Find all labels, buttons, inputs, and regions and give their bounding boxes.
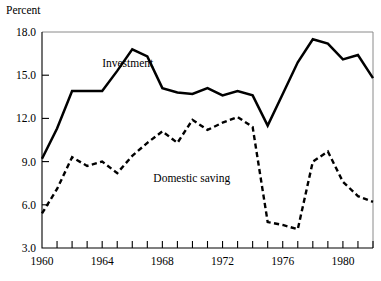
plot-border — [42, 32, 373, 248]
x-axis-tick-labels: 196019641968197219761980 — [31, 255, 355, 267]
y-axis-tick-label: 12.0 — [16, 112, 36, 124]
y-axis-tick-label: 6.0 — [22, 199, 37, 211]
chart-figure: 18.015.012.09.06.03.0 196019641968197219… — [0, 0, 381, 281]
x-axis-tick-label: 1968 — [151, 255, 174, 267]
annotation-domestic-saving: Domestic saving — [153, 172, 230, 185]
line-chart-canvas: 18.015.012.09.06.03.0 196019641968197219… — [0, 0, 381, 281]
series-annotations: InvestmentDomestic saving — [102, 57, 230, 185]
y-axis-tick-label: 3.0 — [22, 242, 37, 254]
data-series-group — [42, 39, 373, 229]
x-axis-tick-label: 1960 — [31, 255, 54, 267]
annotation-investment: Investment — [102, 57, 154, 69]
x-axis-ticks — [57, 241, 373, 248]
y-axis-tick-label: 15.0 — [16, 69, 36, 81]
x-axis-tick-label: 1980 — [331, 255, 354, 267]
x-axis-tick-label: 1976 — [271, 255, 294, 267]
y-axis-tick-labels: 18.015.012.09.06.03.0 — [16, 26, 36, 254]
plot-frame — [42, 32, 373, 248]
y-axis-ticks — [42, 75, 49, 205]
x-axis-tick-label: 1972 — [211, 255, 234, 267]
y-axis-tick-label: 18.0 — [16, 26, 36, 38]
y-axis-title: Percent — [6, 4, 41, 16]
series-line-investment — [42, 39, 373, 159]
plot-axes — [42, 32, 373, 248]
y-axis-tick-label: 9.0 — [22, 156, 37, 168]
x-axis-tick-label: 1964 — [91, 255, 114, 267]
